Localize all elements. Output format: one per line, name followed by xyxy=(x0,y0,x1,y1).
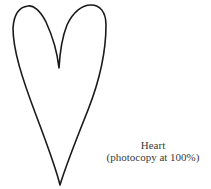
caption-subtitle: (photocopy at 100%) xyxy=(100,151,206,163)
caption-title: Heart xyxy=(100,139,206,151)
heart-shape xyxy=(13,5,106,185)
figure-caption: Heart (photocopy at 100%) xyxy=(100,139,206,163)
